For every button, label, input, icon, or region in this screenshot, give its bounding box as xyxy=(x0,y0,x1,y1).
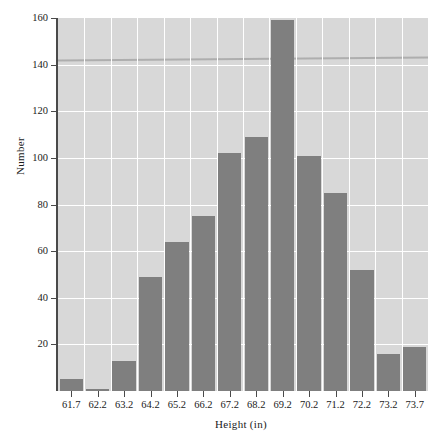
histogram-bar xyxy=(218,153,241,391)
x-axis-tick xyxy=(71,391,72,397)
x-axis-tick-label: 70.2 xyxy=(300,400,318,411)
y-axis-tick xyxy=(51,158,58,159)
histogram-bar xyxy=(139,277,162,391)
x-axis-tick xyxy=(203,391,204,397)
x-axis-tick xyxy=(230,391,231,397)
histogram-bar xyxy=(112,361,135,391)
histogram-bar xyxy=(271,20,294,391)
y-axis-tick xyxy=(51,298,58,299)
y-axis-tick-label: 160 xyxy=(32,13,48,24)
x-gridline xyxy=(375,18,376,391)
y-axis-tick xyxy=(51,344,58,345)
histogram-bar xyxy=(350,270,373,391)
x-axis-tick-label: 68.2 xyxy=(247,400,265,411)
x-axis-tick-label: 65.2 xyxy=(168,400,186,411)
y-axis-tick-label: 100 xyxy=(32,153,48,164)
x-axis-tick-label: 64.2 xyxy=(141,400,159,411)
x-gridline xyxy=(111,18,112,391)
x-axis-tick-label: 61.7 xyxy=(62,400,80,411)
x-axis-tick xyxy=(256,391,257,397)
x-axis-tick xyxy=(98,391,99,397)
histogram-bar xyxy=(377,354,400,391)
plot-inner xyxy=(58,18,428,391)
x-gridline xyxy=(84,18,85,391)
x-axis-tick-label: 73.2 xyxy=(379,400,397,411)
x-axis-tick-label: 62.2 xyxy=(88,400,106,411)
x-axis-tick xyxy=(309,391,310,397)
histogram-bar xyxy=(297,156,320,391)
y-axis-tick xyxy=(51,251,58,252)
x-axis-tick xyxy=(362,391,363,397)
plot-area: 2040608010012014016061.762.263.264.265.2… xyxy=(56,18,428,391)
x-axis-tick-label: 69.2 xyxy=(273,400,291,411)
x-axis-tick-label: 71.2 xyxy=(326,400,344,411)
histogram-bar xyxy=(324,193,347,391)
x-axis-title: Height (in) xyxy=(56,418,426,430)
y-axis-tick-label: 140 xyxy=(32,59,48,70)
y-axis-tick-label: 60 xyxy=(38,246,49,257)
x-axis-tick-label: 66.2 xyxy=(194,400,212,411)
y-axis-tick xyxy=(51,205,58,206)
y-axis-tick xyxy=(51,65,58,66)
x-axis-tick xyxy=(388,391,389,397)
x-axis-tick xyxy=(124,391,125,397)
histogram-bar xyxy=(60,379,83,391)
x-axis-tick xyxy=(177,391,178,397)
y-axis-tick-label: 40 xyxy=(38,293,49,304)
x-axis-tick-label: 63.2 xyxy=(115,400,133,411)
x-axis-tick-label: 67.2 xyxy=(221,400,239,411)
histogram-bar xyxy=(165,242,188,391)
x-axis-tick-label: 72.2 xyxy=(353,400,371,411)
x-axis-tick xyxy=(151,391,152,397)
x-axis-tick xyxy=(415,391,416,397)
x-gridline xyxy=(402,18,403,391)
histogram-bar xyxy=(245,137,268,391)
x-axis-tick-label: 73.7 xyxy=(406,400,424,411)
histogram-bar xyxy=(403,347,426,391)
histogram-figure: Number 2040608010012014016061.762.263.26… xyxy=(0,0,436,444)
y-axis-title: Number xyxy=(14,96,26,216)
y-axis-tick-label: 120 xyxy=(32,106,48,117)
y-axis-tick xyxy=(51,111,58,112)
y-axis-tick-label: 80 xyxy=(38,199,49,210)
y-axis-tick xyxy=(51,18,58,19)
x-axis-tick xyxy=(283,391,284,397)
y-axis-tick-label: 20 xyxy=(38,339,49,350)
histogram-bar xyxy=(192,216,215,391)
x-axis-tick xyxy=(336,391,337,397)
